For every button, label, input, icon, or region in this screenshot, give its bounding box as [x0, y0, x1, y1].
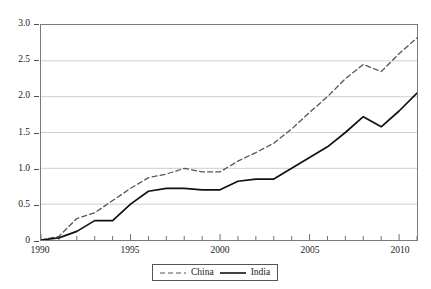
- legend-label-india: India: [251, 268, 271, 278]
- x-axis-tick-label: 2000: [200, 246, 240, 256]
- x-axis-tick-label: 1990: [20, 246, 60, 256]
- chart-figure: 00.51.01.52.02.53.0 19901995200020052010…: [0, 0, 431, 289]
- x-axis-tick-label: 2005: [290, 246, 330, 256]
- chart-legend: China India: [152, 264, 278, 281]
- legend-line-solid-icon: [220, 269, 246, 277]
- x-axis-tick-labels: 19901995200020052010: [0, 0, 431, 289]
- legend-entry-india[interactable]: India: [220, 268, 271, 278]
- x-axis-tick-label: 1995: [110, 246, 150, 256]
- legend-line-dashed-icon: [160, 269, 186, 277]
- legend-label-china: China: [191, 268, 214, 278]
- legend-entry-china[interactable]: China: [160, 268, 214, 278]
- x-axis-tick-label: 2010: [380, 246, 420, 256]
